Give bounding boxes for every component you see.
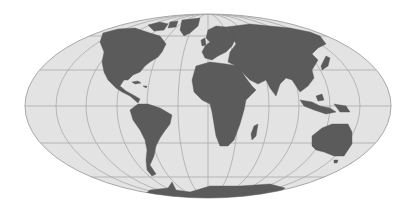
world-map <box>0 0 415 219</box>
